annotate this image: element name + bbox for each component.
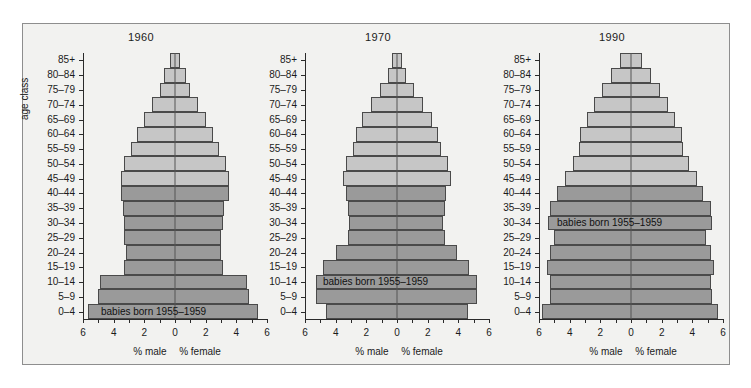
y-axis-label: 30–34 <box>21 218 75 228</box>
y-axis-label: 35–39 <box>477 203 531 213</box>
bar-male <box>620 53 631 68</box>
bar-female <box>397 289 477 304</box>
x-axis-tick-label: 4 <box>682 327 702 338</box>
bar-male <box>124 216 175 231</box>
x-axis-minor-tick <box>412 320 413 323</box>
y-axis-label: 60–64 <box>21 129 75 139</box>
x-axis-tick <box>539 319 540 323</box>
y-axis-label: 75–79 <box>21 85 75 95</box>
x-axis-tick <box>336 319 337 323</box>
bar-female <box>631 230 706 245</box>
bar-female <box>631 156 689 171</box>
y-axis-tick <box>535 149 539 150</box>
bar-male <box>579 142 631 157</box>
bar-male <box>611 68 631 83</box>
y-axis-tick <box>301 208 305 209</box>
panel-title: 1970 <box>259 31 497 43</box>
y-axis-label: 80–84 <box>477 70 531 80</box>
bar-male <box>160 83 175 98</box>
y-axis-tick <box>301 238 305 239</box>
y-axis-tick <box>301 164 305 165</box>
bar-male <box>144 112 175 127</box>
y-axis-tick <box>79 60 83 61</box>
bar-female <box>175 127 213 142</box>
x-axis-minor-tick <box>129 320 130 323</box>
bar-female <box>397 245 457 260</box>
bar-male <box>371 97 397 112</box>
y-axis-tick <box>535 223 539 224</box>
y-axis-label: 45–49 <box>477 174 531 184</box>
y-axis-label: 10–14 <box>243 277 297 287</box>
pyramid-panel-1970: 1970 % male % female 85+80–8475–7970–746… <box>259 24 497 366</box>
x-axis-minor-tick <box>616 320 617 323</box>
y-axis-tick <box>535 297 539 298</box>
bar-male <box>121 186 175 201</box>
y-axis-label: 55–59 <box>477 144 531 154</box>
y-axis-tick <box>79 253 83 254</box>
y-axis-tick <box>301 60 305 61</box>
x-axis-tick-label: 4 <box>104 327 124 338</box>
y-axis-tick <box>301 75 305 76</box>
x-axis-tick <box>144 319 145 323</box>
y-axis-label: 20–24 <box>477 248 531 258</box>
bar-female <box>631 201 711 216</box>
x-axis-minor-tick <box>252 320 253 323</box>
y-axis-tick <box>535 90 539 91</box>
x-axis-tick-label: 2 <box>418 327 438 338</box>
y-axis-tick <box>535 208 539 209</box>
bar-female <box>175 142 219 157</box>
bar-male <box>550 289 631 304</box>
x-axis-tick-label: 4 <box>560 327 580 338</box>
bar-male <box>554 230 631 245</box>
bar-female <box>175 245 221 260</box>
bar-female <box>631 112 675 127</box>
x-axis-tick-label: 4 <box>448 327 468 338</box>
x-axis-tick <box>236 319 237 323</box>
x-axis-tick-label: 2 <box>134 327 154 338</box>
y-axis-tick <box>79 120 83 121</box>
x-axis-minor-tick <box>474 320 475 323</box>
bar-female <box>397 97 423 112</box>
bar-female <box>175 186 229 201</box>
y-axis-label: 65–69 <box>243 115 297 125</box>
bar-male <box>326 304 397 319</box>
x-axis-tick-label: 0 <box>387 327 407 338</box>
x-axis-tick <box>489 319 490 323</box>
bar-male <box>124 230 175 245</box>
plot-area: % male % female 85+80–8475–7970–7465–696… <box>305 53 489 319</box>
bar-female <box>631 289 712 304</box>
bar-male <box>343 171 397 186</box>
x-axis-tick <box>428 319 429 323</box>
center-line <box>631 53 632 319</box>
bar-female <box>397 186 446 201</box>
y-axis-tick <box>301 120 305 121</box>
y-axis-label: 0–4 <box>21 307 75 317</box>
y-axis-tick <box>301 267 305 268</box>
bar-male <box>348 230 397 245</box>
bar-female <box>631 53 642 68</box>
y-axis-label: 20–24 <box>243 248 297 258</box>
bar-female <box>397 142 441 157</box>
y-axis-label: 50–54 <box>243 159 297 169</box>
x-axis-tick <box>366 319 367 323</box>
x-axis-tick <box>114 319 115 323</box>
cohort-annotation: babies born 1955–1959 <box>101 306 206 317</box>
x-axis-minor-tick <box>443 320 444 323</box>
y-axis-tick <box>535 193 539 194</box>
bar-male <box>362 112 397 127</box>
x-axis-tick-label: 0 <box>621 327 641 338</box>
x-axis-minor-tick <box>382 320 383 323</box>
x-axis-minor-tick <box>98 320 99 323</box>
y-axis-label: 60–64 <box>243 129 297 139</box>
y-axis-tick <box>301 282 305 283</box>
y-axis-tick <box>535 312 539 313</box>
y-axis-label: 40–44 <box>477 188 531 198</box>
y-axis-tick <box>535 75 539 76</box>
y-axis-tick <box>79 297 83 298</box>
y-axis-label: 5–9 <box>21 292 75 302</box>
bar-female <box>631 186 703 201</box>
bar-male <box>356 127 397 142</box>
bar-male <box>550 275 631 290</box>
x-axis-tick <box>662 319 663 323</box>
x-axis-minor-tick <box>160 320 161 323</box>
